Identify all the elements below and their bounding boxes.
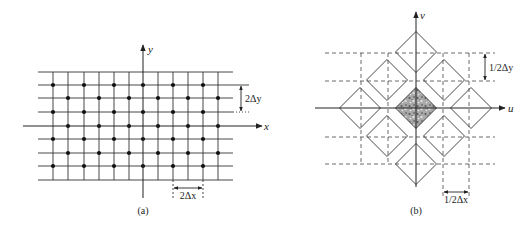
sample-point [82,83,86,87]
sample-point [171,83,175,87]
spectrum-replica-diamond [424,60,465,101]
sample-point [97,151,101,155]
v-axis-label: v [420,9,425,21]
sample-point [171,110,175,114]
sample-point [112,164,116,168]
dim-v-label: 1/2Δy [489,62,513,73]
sample-point [201,83,205,87]
sampling-diagram: x y 2Δy 2Δx (a) u v 1/2Δy 1/2Δx (b) [0,0,532,232]
sample-point [201,137,205,141]
sample-point [186,96,190,100]
sample-point [156,96,160,100]
sample-point [127,96,131,100]
sample-point [201,164,205,168]
sample-point [186,151,190,155]
sample-point [66,96,70,100]
sample-point [216,151,220,155]
dim-y-label: 2Δy [245,93,261,104]
sample-point [156,151,160,155]
sample-point [112,137,116,141]
u-axis-label: u [508,102,514,114]
sample-point [51,137,55,141]
caption-a: (a) [137,205,148,217]
sample-point [97,96,101,100]
sample-point [51,110,55,114]
spectrum-replica-diamond [424,116,465,157]
figure-b-spectrum: u v 1/2Δy 1/2Δx (b) [315,9,514,217]
sample-point [66,151,70,155]
sample-point [51,164,55,168]
sample-point [171,137,175,141]
sample-point [82,164,86,168]
spectrum-replica-diamond [367,60,408,101]
sample-point [201,110,205,114]
sample-point [51,83,55,87]
sample-point [82,110,86,114]
figure-a-sampling-grid: x y 2Δy 2Δx (a) [23,43,269,217]
x-axis-label: x [263,120,269,132]
sample-point [112,83,116,87]
dim-u-label: 1/2Δx [444,194,468,205]
sample-point [216,96,220,100]
y-axis-label: y [147,43,153,55]
sample-point [171,164,175,168]
sample-point [127,151,131,155]
sample-point [112,110,116,114]
sample-point [82,137,86,141]
dim-x-label: 2Δx [180,190,196,201]
caption-b: (b) [410,205,422,217]
spectrum-replica-diamond [367,116,408,157]
